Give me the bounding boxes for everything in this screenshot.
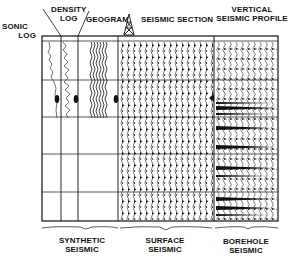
seismic-section-traces	[120, 42, 213, 220]
synthetic-seismic-line2: SEISMIC	[54, 245, 110, 254]
borehole-seismic-label: BOREHOLE SEISMIC	[218, 237, 274, 255]
surface-seismic-label: SURFACE SEISMIC	[139, 236, 191, 254]
seismic-correlation-diagram	[0, 0, 294, 263]
group-braces	[42, 227, 278, 230]
synthetic-seismic-label: SYNTHETIC SEISMIC	[54, 236, 110, 254]
surface-seismic-line1: SURFACE	[139, 236, 191, 245]
synthetic-seismic-line1: SYNTHETIC	[54, 236, 110, 245]
drilling-derrick-icon	[124, 14, 134, 35]
surface-seismic-line2: SEISMIC	[139, 245, 191, 254]
borehole-seismic-line2: SEISMIC	[218, 246, 274, 255]
vsp-traces	[216, 42, 277, 220]
borehole-seismic-line1: BOREHOLE	[218, 237, 274, 246]
leader-lines	[43, 9, 89, 36]
reflector-marker-icon	[55, 95, 119, 103]
